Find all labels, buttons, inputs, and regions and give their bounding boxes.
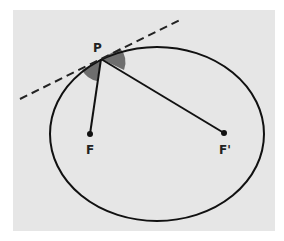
- label-f: F: [86, 143, 94, 157]
- label-f-prime: F': [219, 143, 231, 157]
- diagram-panel: [13, 10, 275, 231]
- ellipse-diagram: P F F': [0, 0, 284, 241]
- focus-f-prime-point: [221, 130, 227, 136]
- label-p: P: [93, 41, 102, 55]
- focus-f-point: [87, 131, 93, 137]
